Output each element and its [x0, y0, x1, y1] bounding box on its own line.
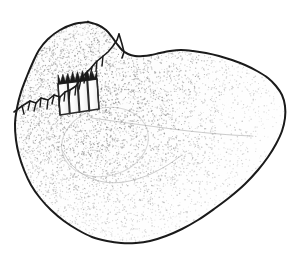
specimen-illustration — [0, 0, 297, 260]
figure-root — [0, 0, 297, 260]
